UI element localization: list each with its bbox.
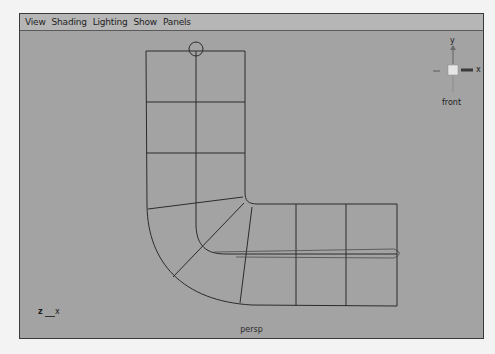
camera-name-label: persp [20,325,483,334]
menu-lighting[interactable]: Lighting [93,14,128,30]
gizmo-view-name: front [442,99,461,107]
axis-z-label: z [38,307,43,316]
menu-view[interactable]: View [25,14,46,30]
axis-line [45,316,55,317]
panel-menubar: View Shading Lighting Show Panels [20,14,483,31]
view-orientation-gizmo[interactable] [433,45,473,92]
menu-shading[interactable]: Shading [52,14,87,30]
gizmo-x-label: x [476,66,481,74]
wireframe-elbow-mesh[interactable] [20,31,483,338]
3d-viewport[interactable]: y x front z x persp [20,31,483,338]
view-cube-face [448,65,458,75]
axis-indicator: z x [38,308,62,318]
viewport-panel: View Shading Lighting Show Panels [19,13,484,339]
menu-panels[interactable]: Panels [163,14,191,30]
axis-x-label: x [55,307,60,316]
gizmo-y-label: y [450,37,455,45]
menu-show[interactable]: Show [134,14,157,30]
